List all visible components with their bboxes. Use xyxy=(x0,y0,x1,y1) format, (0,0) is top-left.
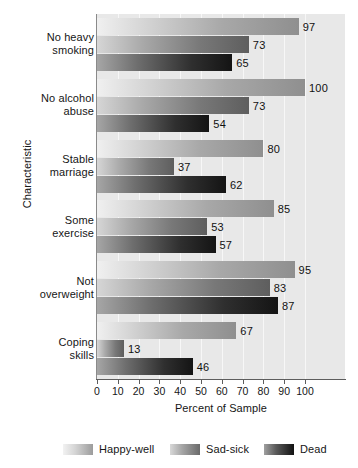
x-tick-mark xyxy=(243,380,244,384)
bar-value-4-1: 83 xyxy=(274,282,287,294)
x-tick-mark xyxy=(222,380,223,384)
bar-value-0-2: 65 xyxy=(236,57,249,69)
category-label-5: Copingskills xyxy=(0,336,94,362)
x-tick-mark xyxy=(97,380,98,384)
category-label-line: Stable xyxy=(0,153,94,166)
category-label-4: Notoverweight xyxy=(0,275,94,301)
bar-value-5-0: 67 xyxy=(240,325,253,337)
bar-3-2 xyxy=(97,236,216,253)
bar-1-2 xyxy=(97,115,209,132)
legend-label: Happy-well xyxy=(99,443,154,455)
bar-2-0 xyxy=(97,140,263,157)
category-label-line: skills xyxy=(0,349,94,362)
plot-area xyxy=(97,14,345,379)
bar-value-1-0: 100 xyxy=(309,82,328,94)
bar-value-3-1: 53 xyxy=(211,221,224,233)
bar-3-0 xyxy=(97,200,274,217)
bar-value-2-0: 80 xyxy=(267,143,280,155)
bar-0-2 xyxy=(97,54,232,71)
bar-1-0 xyxy=(97,79,305,96)
legend-label: Sad-sick xyxy=(206,443,249,455)
bar-0-1 xyxy=(97,36,249,53)
x-tick-mark xyxy=(263,380,264,384)
bar-value-1-1: 73 xyxy=(253,100,266,112)
bar-4-0 xyxy=(97,261,295,278)
bar-value-2-2: 62 xyxy=(230,179,243,191)
legend-swatch-icon xyxy=(264,444,294,455)
category-label-1: No alcoholabuse xyxy=(0,92,94,118)
category-label-line: marriage xyxy=(0,166,94,179)
bar-value-5-2: 46 xyxy=(197,361,210,373)
category-label-line: No heavy xyxy=(0,31,94,44)
category-label-line: Coping xyxy=(0,336,94,349)
x-tick-mark xyxy=(159,380,160,384)
bar-value-3-2: 57 xyxy=(220,239,233,251)
legend-swatch-icon xyxy=(170,444,200,455)
bar-value-4-0: 95 xyxy=(299,264,312,276)
bar-value-5-1: 13 xyxy=(128,343,141,355)
category-label-line: Some xyxy=(0,214,94,227)
legend-item-1: Sad-sick xyxy=(170,440,249,458)
legend-label: Dead xyxy=(300,443,327,455)
bar-0-0 xyxy=(97,18,299,35)
gridline xyxy=(284,14,285,379)
category-label-line: exercise xyxy=(0,227,94,240)
x-tick-mark xyxy=(118,380,119,384)
bar-5-1 xyxy=(97,340,124,357)
x-tick-mark xyxy=(201,380,202,384)
category-label-line: overweight xyxy=(0,288,94,301)
bar-5-2 xyxy=(97,358,193,375)
bar-1-1 xyxy=(97,97,249,114)
bar-value-1-2: 54 xyxy=(213,118,226,130)
bar-value-2-1: 37 xyxy=(178,161,191,173)
chart-legend: Happy-wellSad-sickDead xyxy=(0,440,358,462)
category-label-line: abuse xyxy=(0,105,94,118)
x-tick-mark xyxy=(180,380,181,384)
category-label-line: smoking xyxy=(0,44,94,57)
legend-swatch-icon xyxy=(63,444,93,455)
category-label-0: No heavysmoking xyxy=(0,31,94,57)
legend-item-2: Dead xyxy=(264,440,327,458)
bar-3-1 xyxy=(97,218,207,235)
x-tick-label-100: 100 xyxy=(292,385,318,397)
x-tick-mark xyxy=(284,380,285,384)
category-label-2: Stablemarriage xyxy=(0,153,94,179)
bar-value-4-2: 87 xyxy=(282,300,295,312)
bar-value-0-0: 97 xyxy=(303,21,316,33)
category-label-3: Someexercise xyxy=(0,214,94,240)
x-axis-title: Percent of Sample xyxy=(97,402,345,414)
legend-item-0: Happy-well xyxy=(63,440,154,458)
x-tick-mark xyxy=(305,380,306,384)
bar-value-0-1: 73 xyxy=(253,39,266,51)
bar-4-2 xyxy=(97,297,278,314)
bar-chart: Characteristic No heavysmokingNo alcohol… xyxy=(0,0,358,468)
x-tick-mark xyxy=(139,380,140,384)
bar-5-0 xyxy=(97,322,236,339)
bar-4-1 xyxy=(97,279,270,296)
category-label-line: Not xyxy=(0,275,94,288)
category-label-line: No alcohol xyxy=(0,92,94,105)
bar-value-3-0: 85 xyxy=(278,203,291,215)
bar-2-1 xyxy=(97,158,174,175)
gridline xyxy=(263,14,264,379)
gridline xyxy=(305,14,306,379)
bar-2-2 xyxy=(97,176,226,193)
